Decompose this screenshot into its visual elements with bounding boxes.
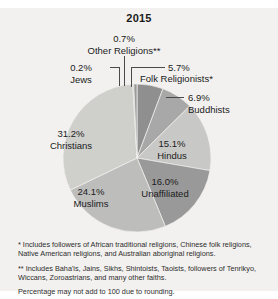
label-muslims-name: Muslims [62, 198, 120, 210]
page-edge-top [0, 0, 278, 8]
label-jews: 0.2% Jews [45, 62, 117, 85]
label-buddhists-pct: 6.9% [188, 92, 230, 104]
leader-line-buddhists [166, 97, 184, 98]
label-folk-religionists-name-wrap: Folk Religionists* [140, 73, 213, 85]
leader-line-folk-horizontal [131, 67, 165, 68]
footnote-1: * Includes followers of African traditio… [18, 240, 262, 259]
footnote-3: Percentage may not add to 100 due to rou… [18, 287, 262, 296]
leader-line-other-religions [124, 56, 125, 86]
label-hindus: 15.1% Hindus [144, 138, 200, 161]
label-hindus-name: Hindus [144, 150, 200, 162]
label-jews-pct: 0.2% [45, 62, 117, 74]
label-christians-name: Christians [40, 140, 102, 152]
label-unaffiliated: 16.0% Unaffiliated [128, 176, 202, 199]
label-folk-religionists-name: Folk Religionists* [140, 73, 213, 85]
label-buddhists: 6.9% Buddhists [188, 92, 230, 115]
label-muslims-pct: 24.1% [62, 186, 120, 198]
label-folk-religionists-pct: 5.7% [168, 62, 190, 74]
label-unaffiliated-pct: 16.0% [128, 176, 202, 188]
label-hindus-pct: 15.1% [144, 138, 200, 150]
label-jews-name: Jews [45, 74, 117, 86]
label-christians: 31.2% Christians [40, 128, 102, 151]
label-folk-religionists: 5.7% [168, 62, 190, 74]
label-muslims: 24.1% Muslims [62, 186, 120, 209]
leader-line-jews-vertical [119, 67, 120, 86]
footnotes: * Includes followers of African traditio… [18, 240, 262, 296]
label-other-religions: 0.7% Other Religions** [29, 33, 219, 56]
label-other-religions-name: Other Religions** [29, 45, 219, 57]
chart-title: 2015 [0, 12, 278, 24]
footnote-2: ** Includes Baha'is, Jains, Sikhs, Shint… [18, 264, 262, 283]
label-buddhists-name: Buddhists [188, 104, 230, 116]
religion-pie-chart-figure: 2015 0.7% Other Religions** 0.2% Jews 5.… [0, 0, 278, 299]
leader-line-folk-vertical [131, 67, 132, 87]
label-other-religions-pct: 0.7% [29, 33, 219, 45]
label-christians-pct: 31.2% [40, 128, 102, 140]
label-unaffiliated-name: Unaffiliated [128, 188, 202, 200]
